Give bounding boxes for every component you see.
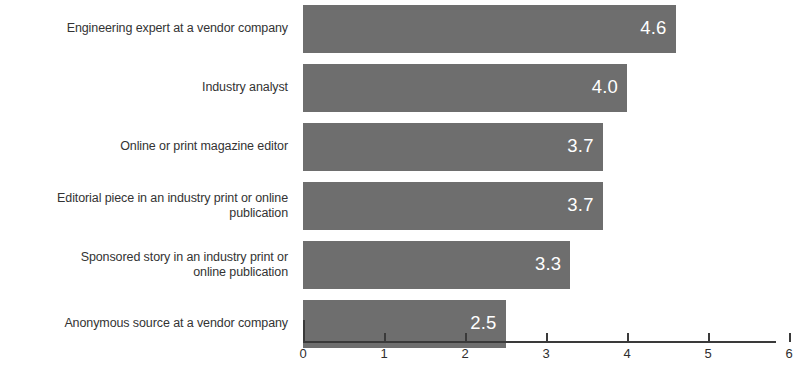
category-label: Anonymous source at a vendor company bbox=[0, 300, 288, 348]
x-axis-tick-label: 5 bbox=[704, 346, 711, 361]
x-axis-tick bbox=[546, 333, 548, 342]
category-label: Editorial piece in an industry print or … bbox=[0, 182, 288, 230]
bar-value-label: 4.6 bbox=[640, 19, 666, 38]
plot-area: 4.64.03.73.73.32.5 bbox=[303, 0, 792, 342]
bar: 3.3 bbox=[303, 241, 570, 289]
category-label-line: Sponsored story in an industry print or bbox=[81, 250, 288, 266]
category-label: Industry analyst bbox=[0, 64, 288, 112]
x-axis-tick bbox=[384, 333, 386, 342]
bar-value-label: 3.7 bbox=[567, 196, 593, 215]
x-axis-tick bbox=[708, 333, 710, 342]
bar: 4.6 bbox=[303, 5, 676, 53]
x-axis-tick bbox=[789, 333, 791, 342]
category-axis-labels: Engineering expert at a vendor companyIn… bbox=[0, 0, 296, 342]
x-axis-tick-label: 0 bbox=[299, 346, 306, 361]
bar: 3.7 bbox=[303, 123, 603, 171]
category-label: Online or print magazine editor bbox=[0, 123, 288, 171]
category-label-line: Anonymous source at a vendor company bbox=[64, 316, 288, 332]
x-axis-tick-label: 3 bbox=[542, 346, 549, 361]
bar-value-label: 4.0 bbox=[592, 78, 618, 97]
category-label-line: Engineering expert at a vendor company bbox=[67, 21, 288, 37]
bar: 3.7 bbox=[303, 182, 603, 230]
x-axis-tick bbox=[465, 333, 467, 342]
category-label: Sponsored story in an industry print oro… bbox=[0, 241, 288, 289]
x-axis-tick-label: 6 bbox=[785, 346, 792, 361]
x-axis-tick-label: 2 bbox=[461, 346, 468, 361]
x-axis-line bbox=[303, 341, 776, 343]
x-axis-tick-label: 1 bbox=[380, 346, 387, 361]
category-label: Engineering expert at a vendor company bbox=[0, 5, 288, 53]
bar-value-label: 2.5 bbox=[470, 314, 496, 333]
bar: 4.0 bbox=[303, 64, 627, 112]
category-label-line: publication bbox=[229, 206, 288, 222]
x-axis-tick bbox=[627, 333, 629, 342]
x-axis-tick bbox=[303, 333, 305, 342]
category-label-line: Editorial piece in an industry print or … bbox=[57, 191, 288, 207]
category-label-line: online publication bbox=[193, 265, 288, 281]
bar-value-label: 3.7 bbox=[567, 137, 593, 156]
category-label-line: Industry analyst bbox=[202, 80, 288, 96]
category-label-line: Online or print magazine editor bbox=[120, 139, 288, 155]
bar-value-label: 3.3 bbox=[535, 255, 561, 274]
x-axis-tick-label: 4 bbox=[623, 346, 630, 361]
